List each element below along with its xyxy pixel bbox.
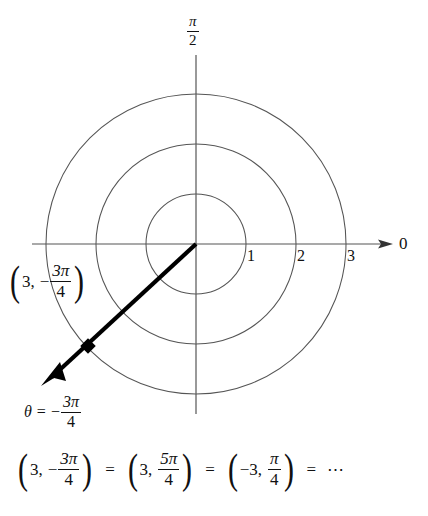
term-3-comma: , <box>258 461 262 478</box>
radial-tick-label-3: 3 <box>347 247 355 265</box>
equals-sign-1: = <box>105 461 115 478</box>
term-2-angle-denominator: 4 <box>158 470 179 489</box>
term-1-sign: − <box>48 461 58 478</box>
term-1-comma: , <box>38 461 42 478</box>
pi-half-fraction: π 2 <box>187 14 199 48</box>
pi-half-denominator: 2 <box>187 32 199 49</box>
polar-plot-canvas <box>0 0 428 516</box>
polar-diagram-figure: π 2 0 1 2 3 ( 3 , − 3π 4 ) θ = − <box>0 0 428 516</box>
equals-sign-3: = <box>306 461 316 478</box>
point-label-open-paren: ( <box>10 266 20 296</box>
point-label-comma: , <box>30 273 34 290</box>
theta-angle-denominator: 4 <box>61 413 81 431</box>
term-2-angle-numerator: 5π <box>158 450 179 470</box>
term-3-close-paren: ) <box>284 454 294 484</box>
term-1-open-paren: ( <box>18 454 28 484</box>
point-coordinate-label: ( 3 , − 3π 4 ) <box>8 262 86 300</box>
term-1-angle-denominator: 4 <box>58 470 79 489</box>
term-1-angle-fraction: 3π 4 <box>58 450 79 488</box>
equals-sign-2: = <box>205 461 215 478</box>
term-2-angle-fraction: 5π 4 <box>158 450 179 488</box>
equivalence-term-1: ( 3 , − 3π 4 ) <box>16 450 94 488</box>
theta-symbol: θ <box>24 404 32 420</box>
term-3-radius: −3 <box>240 461 258 478</box>
term-3-angle-denominator: 4 <box>268 470 281 489</box>
equivalence-term-3: ( −3 , π 4 ) <box>226 450 296 488</box>
point-label-angle-numerator: 3π <box>50 262 71 282</box>
ellipsis: ⋯ <box>327 461 346 478</box>
term-2-radius: 3 <box>140 461 149 478</box>
term-1-angle-numerator: 3π <box>58 450 79 470</box>
theta-equals-sign: = <box>37 404 46 420</box>
term-1-close-paren: ) <box>82 454 92 484</box>
theta-minus-sign: − <box>51 404 60 420</box>
term-3-angle-numerator: π <box>268 450 281 470</box>
vertical-axis-label: π 2 <box>186 14 200 48</box>
term-1-radius: 3 <box>30 461 39 478</box>
point-label-angle-fraction: 3π 4 <box>50 262 71 300</box>
point-label-sign: − <box>40 273 50 290</box>
term-2-open-paren: ( <box>128 454 138 484</box>
equivalence-term-2: ( 3 , 5π 4 ) <box>126 450 195 488</box>
radial-tick-label-1: 1 <box>247 247 255 265</box>
term-2-close-paren: ) <box>182 454 192 484</box>
term-2-comma: , <box>148 461 152 478</box>
term-3-angle-fraction: π 4 <box>268 450 281 488</box>
theta-angle-fraction: 3π 4 <box>61 394 81 430</box>
polar-axis-label: 0 <box>399 235 408 252</box>
point-label-close-paren: ) <box>74 266 84 296</box>
ray-angle-label: θ = − 3π 4 <box>24 394 82 430</box>
radial-tick-label-2: 2 <box>297 247 305 265</box>
term-3-open-paren: ( <box>228 454 238 484</box>
equivalence-equation: ( 3 , − 3π 4 ) = ( 3 , 5π <box>16 450 346 488</box>
point-label-radius: 3 <box>22 273 31 290</box>
theta-angle-numerator: 3π <box>61 394 81 413</box>
point-label-angle-denominator: 4 <box>50 282 71 301</box>
pi-half-numerator: π <box>187 14 199 32</box>
